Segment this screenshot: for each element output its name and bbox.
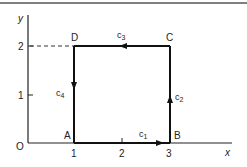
- arrow-left-icon: [119, 43, 127, 49]
- arrow-right-icon: [156, 140, 164, 146]
- y-tick-label-2: 2: [18, 41, 24, 52]
- vertex-label-b: B: [174, 130, 181, 141]
- arrow-up-icon: [167, 95, 173, 103]
- y-axis-label: y: [17, 13, 24, 24]
- path-label-c1: c1: [139, 129, 148, 140]
- x-tick-label-3: 3: [166, 148, 172, 159]
- vertex-label-d: D: [71, 32, 78, 43]
- path-label-c4: c4: [56, 88, 65, 99]
- vertex-label-a: A: [64, 130, 71, 141]
- vertex-label-c: C: [166, 32, 173, 43]
- path-label-c2: c2: [175, 92, 184, 103]
- rectangular-contour-diagram: y x O 2 1 1 2 3 A B C D c1 c2 c3 c4: [0, 0, 247, 167]
- x-tick-label-2: 2: [119, 148, 125, 159]
- x-tick-label-1: 1: [71, 148, 77, 159]
- y-tick-label-1: 1: [18, 90, 24, 101]
- arrow-down-icon: [71, 82, 77, 90]
- x-axis-label: x: [224, 147, 231, 158]
- origin-label: O: [16, 141, 24, 152]
- path-label-c3: c3: [117, 30, 126, 41]
